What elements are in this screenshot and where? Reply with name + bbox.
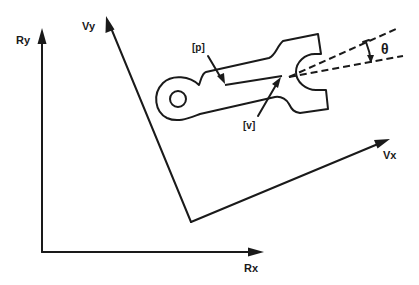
part — [156, 34, 328, 120]
position-label: [p] — [192, 42, 205, 53]
reference-dashed-line — [289, 56, 403, 77]
position-pointer — [208, 56, 221, 78]
robot-y-label: Ry — [16, 34, 31, 46]
robot-frame: Ry Rx — [16, 28, 264, 274]
vision-y-label: Vy — [82, 20, 96, 32]
angle-label: θ — [381, 41, 389, 57]
vector-arrowhead-icon — [272, 77, 281, 88]
robot-y-arrowhead-icon — [38, 28, 47, 44]
vision-x-arrowhead-icon — [374, 139, 390, 149]
part-hole — [170, 91, 186, 107]
part-outline — [156, 34, 328, 120]
vector-label: [v] — [243, 120, 255, 131]
vision-y-axis — [111, 28, 191, 222]
robot-x-label: Rx — [244, 262, 259, 274]
robot-x-arrowhead-icon — [248, 248, 264, 257]
vector-annotation: [v] — [243, 77, 281, 131]
angle-tick-top — [363, 40, 369, 42]
vision-x-axis — [191, 144, 378, 222]
position-annotation: [p] — [192, 42, 225, 84]
coordinate-frames-diagram: Ry Rx Vy Vx θ [p] [v] — [0, 0, 419, 285]
vision-x-label: Vx — [383, 149, 397, 161]
vision-frame: Vy Vx — [82, 16, 397, 222]
vision-y-arrowhead-icon — [106, 16, 115, 33]
